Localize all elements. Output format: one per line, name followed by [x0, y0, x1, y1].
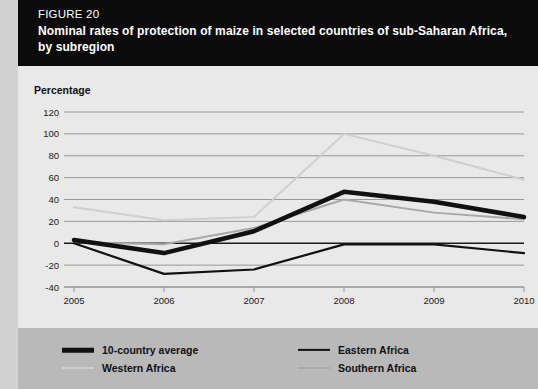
y-tick-label: 20 — [48, 216, 59, 227]
legend-swatch-eastern-africa — [298, 344, 330, 356]
legend-item-10-country-average: 10-country average — [62, 342, 198, 358]
legend-column-right: Eastern Africa Southern Africa — [298, 342, 416, 378]
legend-column-left: 10-country average Western Africa — [62, 342, 198, 378]
x-tick-label: 2007 — [243, 295, 264, 306]
y-tick-label: -40 — [45, 282, 59, 293]
legend-swatch-southern-africa — [298, 362, 330, 374]
line-chart: -40-200204060801001202005200620072008200… — [18, 66, 538, 328]
y-tick-label: 100 — [43, 128, 59, 139]
figure-number: FIGURE 20 — [38, 7, 524, 22]
y-tick-label: 0 — [54, 238, 59, 249]
legend-label-western-africa: Western Africa — [102, 362, 176, 374]
figure-container: FIGURE 20 Nominal rates of protection of… — [0, 0, 538, 389]
legend-item-eastern-africa: Eastern Africa — [298, 342, 416, 358]
y-tick-label: 40 — [48, 194, 59, 205]
y-tick-label: 80 — [48, 150, 59, 161]
chart-legend: 10-country average Western Africa Easter… — [18, 328, 538, 389]
x-tick-label: 2010 — [513, 295, 534, 306]
y-tick-label: 60 — [48, 172, 59, 183]
legend-swatch-10-country-average — [62, 344, 94, 356]
x-tick-label: 2005 — [63, 295, 84, 306]
chart-panel: Percentage -40-2002040608010012020052006… — [18, 66, 538, 328]
legend-item-western-africa: Western Africa — [62, 360, 198, 376]
y-tick-label: 120 — [43, 107, 59, 118]
figure-header: FIGURE 20 Nominal rates of protection of… — [18, 0, 538, 66]
x-tick-label: 2009 — [423, 295, 444, 306]
x-tick-label: 2006 — [153, 295, 174, 306]
legend-item-southern-africa: Southern Africa — [298, 360, 416, 376]
figure-title: Nominal rates of protection of maize in … — [38, 23, 524, 55]
legend-label-10-country-average: 10-country average — [102, 344, 198, 356]
legend-label-southern-africa: Southern Africa — [338, 362, 416, 374]
legend-label-eastern-africa: Eastern Africa — [338, 344, 409, 356]
legend-swatch-western-africa — [62, 362, 94, 374]
x-tick-label: 2008 — [333, 295, 354, 306]
y-tick-label: -20 — [45, 260, 59, 271]
